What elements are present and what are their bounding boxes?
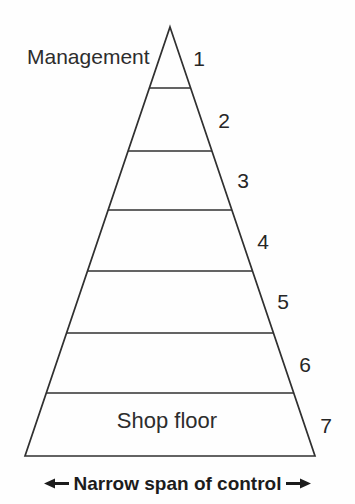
pyramid-diagram: Management Shop floor 1 2 3 4 5 6 7 Narr…	[0, 0, 355, 504]
left-arrow-icon	[44, 478, 69, 489]
level-number-4: 4	[257, 231, 269, 252]
right-arrow-icon	[286, 478, 311, 489]
level-number-1: 1	[193, 48, 205, 69]
span-of-control-caption: Narrow span of control	[0, 474, 355, 493]
level-number-7: 7	[320, 415, 332, 436]
pyramid-outline	[25, 27, 315, 456]
management-label: Management	[27, 46, 150, 67]
level-number-6: 6	[299, 354, 311, 375]
level-number-2: 2	[218, 110, 230, 131]
caption-text: Narrow span of control	[74, 474, 282, 493]
shop-floor-label: Shop floor	[117, 410, 217, 432]
level-number-5: 5	[277, 291, 289, 312]
level-number-3: 3	[237, 170, 249, 191]
